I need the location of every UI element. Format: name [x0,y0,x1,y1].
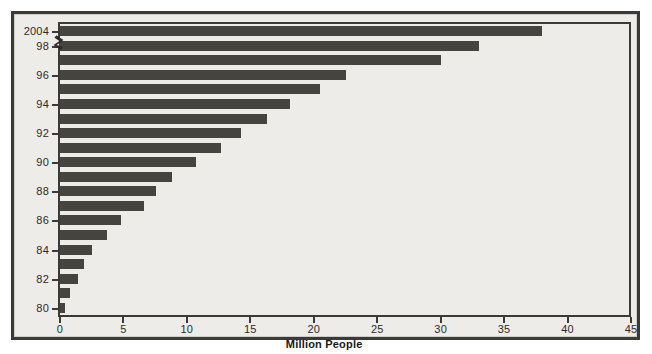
bar [60,114,267,124]
y-axis-tick-label: 90 [36,156,49,168]
y-axis-tick-label: 98 [36,40,49,52]
x-axis-tick-label: 25 [371,323,384,335]
x-axis-tick-label: 10 [181,323,194,335]
y-axis-tick-label: 96 [36,69,49,81]
bar-row [60,55,631,65]
bar [60,143,221,153]
bar [60,288,70,298]
bar [60,215,121,225]
y-axis-tick-label: 2004 [24,25,49,37]
x-axis-tick-label: 30 [434,323,447,335]
bar-row [60,201,631,211]
bar-row [60,215,631,225]
bar-row [60,70,631,80]
y-axis-tick [52,308,58,310]
bar [60,70,346,80]
chart-page: 200498969492908886848280 051015202530354… [0,0,652,354]
x-axis-line [58,315,631,317]
y-axis-tick [52,133,58,135]
y-axis-tick [52,75,58,77]
bar-row [60,288,631,298]
y-axis-tick-label: 86 [36,214,49,226]
bar [60,157,196,167]
bar [60,128,241,138]
y-axis-tick [52,104,58,106]
bar-row [60,84,631,94]
y-axis-tick [52,31,58,33]
bar-row [60,143,631,153]
bar-row [60,99,631,109]
bar [60,259,84,269]
bar-series [60,24,631,315]
bar [60,245,92,255]
x-axis-tick-label: 20 [307,323,320,335]
y-axis-tick-label: 88 [36,185,49,197]
y-axis-tick-label: 92 [36,127,49,139]
bar [60,26,542,36]
x-axis-tick-label: 45 [625,323,638,335]
y-axis-tick [52,162,58,164]
y-axis-tick-label: 82 [36,273,49,285]
x-axis-title: Million People [286,338,363,350]
x-axis-tick-label: 5 [120,323,126,335]
y-axis-tick [52,279,58,281]
bar-row [60,230,631,240]
bar-row [60,114,631,124]
bar-row [60,303,631,313]
bar-row [60,26,631,36]
bar-row [60,186,631,196]
y-axis-tick-label: 80 [36,302,49,314]
bar [60,172,172,182]
bar-row [60,245,631,255]
x-axis-tick-label: 40 [561,323,574,335]
bar-row [60,274,631,284]
y-axis-tick [52,191,58,193]
bar-row [60,259,631,269]
bar [60,201,144,211]
x-axis-tick-label: 35 [498,323,511,335]
plot-area: 200498969492908886848280 051015202530354… [58,22,631,317]
bar-row [60,157,631,167]
bar-row [60,128,631,138]
bar [60,99,290,109]
bar [60,230,107,240]
bar [60,186,156,196]
bar [60,84,320,94]
bar-row [60,41,631,51]
bar-row [60,172,631,182]
bar [60,41,479,51]
y-axis-tick [52,250,58,252]
bar [60,303,65,313]
bar [60,274,78,284]
axis-break-icon [53,35,67,51]
y-axis-tick-label: 94 [36,98,49,110]
y-axis-tick [52,220,58,222]
x-axis-tick-label: 0 [57,323,63,335]
y-axis-tick-label: 84 [36,244,49,256]
x-axis-tick-label: 15 [244,323,257,335]
chart-frame: 200498969492908886848280 051015202530354… [11,11,640,340]
bar [60,55,441,65]
